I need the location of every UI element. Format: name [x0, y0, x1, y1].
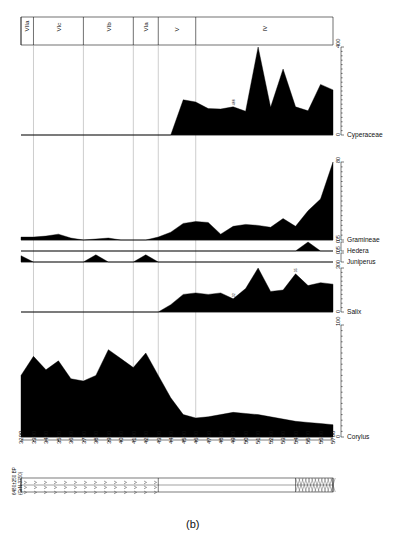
x-tick-label-3800: 3800	[93, 430, 99, 444]
zone-label-VIa: VIa	[142, 22, 149, 32]
ytick-label-max-salix: 30	[335, 263, 341, 269]
x-tick-label-3500: 3500	[56, 430, 62, 444]
zone-label-VIc: VIc	[55, 23, 62, 32]
x-tick-label-4000: 4000	[118, 430, 124, 444]
x-tick-label-4600: 4600	[193, 430, 199, 444]
x-tick-label-5000: 5000	[243, 430, 249, 444]
x-tick-label-4900: 4900	[230, 430, 236, 444]
zone-label-VIb: VIb	[105, 22, 112, 32]
curve-cyperaceae	[21, 47, 333, 135]
x-tick-label-4800: 4800	[218, 430, 224, 444]
ytick-label-max-hedera: 0.5	[335, 235, 341, 243]
x-tick-label-4400: 4400	[168, 430, 174, 444]
x-tick-label-5300: 5300	[280, 430, 286, 444]
x-tick-label-3200: 3200	[18, 430, 24, 444]
x-tick-label-5600: 5600	[318, 430, 324, 444]
curve-juniperus	[21, 255, 333, 262]
x-tick-label-5100: 5100	[255, 430, 261, 444]
diagram-svg: VIIaVIcVIbVIaVIV4000Cyperaceae466800Gram…	[0, 0, 409, 550]
data-annotation: 35	[294, 268, 298, 272]
zone-label-IV: IV	[261, 25, 268, 32]
x-tick-label-4100: 4100	[131, 430, 137, 444]
taxon-label-salix: Salix	[347, 308, 362, 315]
figure-caption: (b)	[186, 518, 199, 530]
data-annotation: 466	[232, 99, 236, 105]
x-tick-label-5400: 5400	[293, 430, 299, 444]
curve-hedera	[21, 242, 333, 251]
data-annotation: 32	[232, 293, 236, 297]
ytick-label-max-cyperaceae: 400	[335, 39, 341, 48]
x-tick-label-4300: 4300	[156, 430, 162, 444]
pollen-diagram-figure: VIIaVIcVIbVIaVIV4000Cyperaceae466800Gram…	[0, 0, 409, 550]
ytick-label-min-juniperus: 0	[335, 260, 341, 263]
taxon-label-corylus: Corylus	[347, 433, 370, 441]
taxon-label-gramineae: Gramineae	[347, 236, 380, 243]
curve-salix	[21, 268, 333, 312]
x-tick-label-3300: 3300	[31, 430, 37, 444]
x-tick-label-5700: 5700	[330, 430, 336, 444]
x-tick-label-4700: 4700	[206, 430, 212, 444]
taxon-label-cyperaceae: Cyperaceae	[347, 131, 383, 139]
ytick-label-min-cyperaceae: 0	[335, 133, 341, 136]
x-tick-label-3400: 3400	[43, 430, 49, 444]
ytick-label-max-corylus: 100	[335, 317, 341, 326]
radiocarbon-date-line2: (GrN-3750)	[18, 471, 23, 495]
ytick-label-max-gramineae: 80	[335, 157, 341, 163]
taxon-label-hedera: Hedera	[347, 247, 369, 254]
x-tick-label-3600: 3600	[68, 430, 74, 444]
radiocarbon-date-line1: 6480±250 BP	[12, 467, 17, 495]
ytick-label-min-salix: 0	[335, 310, 341, 313]
zone-label-VIIa: VIIa	[23, 20, 30, 32]
curve-gramineae	[21, 162, 333, 240]
taxon-label-juniperus: Juniperus	[347, 258, 376, 266]
zone-label-V: V	[173, 27, 180, 32]
x-tick-label-5200: 5200	[268, 430, 274, 444]
x-tick-label-5500: 5500	[305, 430, 311, 444]
x-tick-label-3900: 3900	[106, 430, 112, 444]
x-tick-label-3700: 3700	[81, 430, 87, 444]
x-tick-label-4500: 4500	[181, 430, 187, 444]
ytick-label-max-juniperus: 0.5	[335, 246, 341, 254]
x-tick-label-4200: 4200	[143, 430, 149, 444]
curve-corylus	[21, 350, 333, 437]
